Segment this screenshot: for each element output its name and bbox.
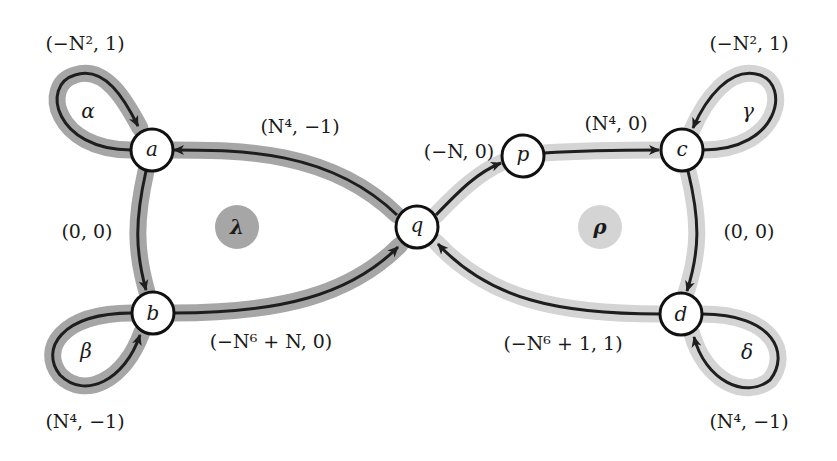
node-c-label: c	[676, 137, 687, 161]
weight-loop-delta: (N⁴, −1)	[709, 410, 788, 432]
region-rho: ρ	[578, 205, 622, 249]
node-c: c	[661, 129, 703, 171]
node-a-label: a	[146, 137, 158, 161]
node-q: q	[396, 206, 438, 248]
weight-edge-q-to-a: (N⁴, −1)	[260, 115, 339, 137]
weight-loop-alpha: (−N², 1)	[45, 32, 124, 54]
weight-loop-beta: (N⁴, −1)	[45, 410, 124, 432]
weighted-graph-diagram: λ ρ a b q p c d α β γ δ (−N², 1) (N⁴, −1…	[0, 0, 837, 461]
region-rho-label: ρ	[592, 215, 607, 239]
loop-delta-name: δ	[741, 340, 753, 364]
node-p: p	[502, 135, 544, 177]
weight-edge-a-to-b: (0, 0)	[61, 220, 112, 242]
region-lambda: λ	[215, 205, 259, 249]
node-b: b	[132, 292, 174, 334]
weight-edge-d-to-q: (−N⁶ + 1, 1)	[503, 332, 622, 354]
node-d: d	[660, 293, 702, 335]
weight-edge-b-to-q: (−N⁶ + N, 0)	[210, 330, 333, 352]
loop-beta-name: β	[79, 339, 92, 363]
region-lambda-label: λ	[229, 215, 244, 239]
weight-edge-q-to-p: (−N, 0)	[424, 140, 494, 162]
node-p-label: p	[517, 142, 530, 166]
loop-gamma-name: γ	[742, 99, 754, 123]
node-b-label: b	[147, 301, 160, 325]
loop-alpha-name: α	[81, 99, 95, 123]
weight-edge-c-to-d: (0, 0)	[723, 220, 774, 242]
node-q-label: q	[411, 213, 424, 237]
weight-edge-p-to-c: (N⁴, 0)	[584, 112, 647, 134]
node-d-label: d	[675, 302, 688, 326]
weight-loop-gamma: (−N², 1)	[709, 32, 788, 54]
node-a: a	[131, 129, 173, 171]
